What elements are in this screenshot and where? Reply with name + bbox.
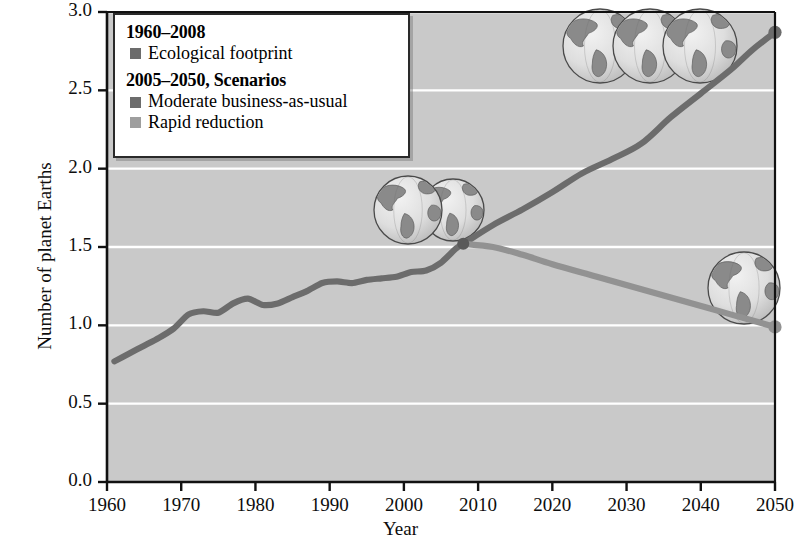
legend-label-rapid-reduction: Rapid reduction — [148, 113, 263, 132]
x-tick-label: 1960 — [77, 494, 137, 516]
x-tick-label: 2050 — [745, 494, 801, 516]
legend-swatch-ecological-footprint — [130, 48, 141, 59]
x-tick-label: 2010 — [448, 494, 508, 516]
y-tick-label: 2.5 — [46, 77, 92, 99]
x-tick-label: 2030 — [597, 494, 657, 516]
legend-swatch-business-as-usual — [130, 97, 141, 108]
scenario-branch-point — [457, 238, 469, 250]
x-tick-label: 2000 — [374, 494, 434, 516]
legend-item-ecological-footprint: Ecological footprint — [126, 44, 399, 63]
legend-swatch-rapid-reduction — [130, 117, 141, 128]
y-tick-label: 0.0 — [46, 469, 92, 491]
y-tick-label: 1.5 — [46, 234, 92, 256]
globe-icon-earth-mid — [374, 176, 442, 244]
y-tick-label: 2.0 — [46, 156, 92, 178]
x-tick-label: 1990 — [300, 494, 360, 516]
x-tick-label: 2040 — [671, 494, 731, 516]
chart-legend: 1960–2008 Ecological footprint 2005–2050… — [113, 13, 410, 158]
legend-label-business-as-usual: Moderate business-as-usual — [148, 92, 347, 111]
ecological-footprint-chart: Number of planet Earths Year 0.00.51.01.… — [0, 0, 801, 556]
y-tick-label: 3.0 — [46, 0, 92, 21]
legend-item-rapid-reduction: Rapid reduction — [126, 113, 399, 132]
legend-label-ecological-footprint: Ecological footprint — [148, 44, 292, 63]
legend-heading-scenarios: 2005–2050, Scenarios — [126, 70, 399, 91]
x-tick-label: 1980 — [225, 494, 285, 516]
y-tick-label: 0.5 — [46, 391, 92, 413]
x-tick-label: 1970 — [151, 494, 211, 516]
legend-item-business-as-usual: Moderate business-as-usual — [126, 92, 399, 111]
x-axis-title: Year — [0, 518, 801, 540]
legend-heading-historical: 1960–2008 — [126, 22, 399, 43]
x-tick-label: 2020 — [522, 494, 582, 516]
y-tick-label: 1.0 — [46, 312, 92, 334]
